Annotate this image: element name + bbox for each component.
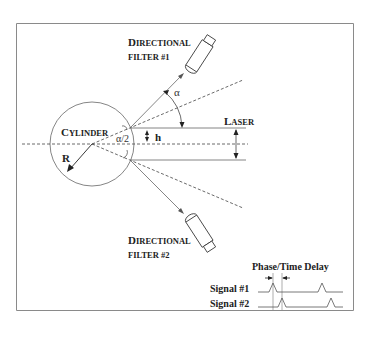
signal-2-label: Signal #2 (210, 298, 249, 309)
alpha-label: α (174, 86, 180, 98)
laser-arrow-up-icon (234, 129, 239, 135)
h-arrow-down-icon (145, 137, 149, 142)
delay-arrow-right-icon (268, 276, 273, 280)
signal-2-waveform (258, 298, 343, 307)
lower-dashed-ray (92, 144, 243, 208)
filter-2-label-line1: DIRECTIONAL (128, 234, 191, 246)
ray-to-filter-2 (130, 160, 182, 212)
filter-1-label-line1: DIRECTIONAL (128, 36, 191, 48)
signal-1-waveform (258, 283, 343, 292)
filter-2-label-line2: FILTER #2 (128, 250, 170, 260)
signal-1-label: Signal #1 (210, 283, 249, 294)
half-alpha-label: α/2 (116, 133, 129, 144)
radius-line (70, 144, 92, 169)
laser-arrow-down-icon (234, 153, 239, 159)
laser-label: LASER (224, 115, 255, 127)
cylinder-label: CYLINDER (61, 126, 109, 138)
delay-arrow-left-icon (282, 276, 287, 280)
radius-label: R (62, 152, 71, 164)
filter-1-label-line2: FILTER #1 (128, 52, 170, 62)
phase-delay-label: Phase/Time Delay (252, 261, 329, 272)
h-label: h (155, 131, 161, 143)
directional-filter-2-icon (184, 212, 217, 253)
laser-cylinder-diagram: DIRECTIONAL FILTER #1 DIRECTIONAL FILTER… (0, 0, 369, 340)
